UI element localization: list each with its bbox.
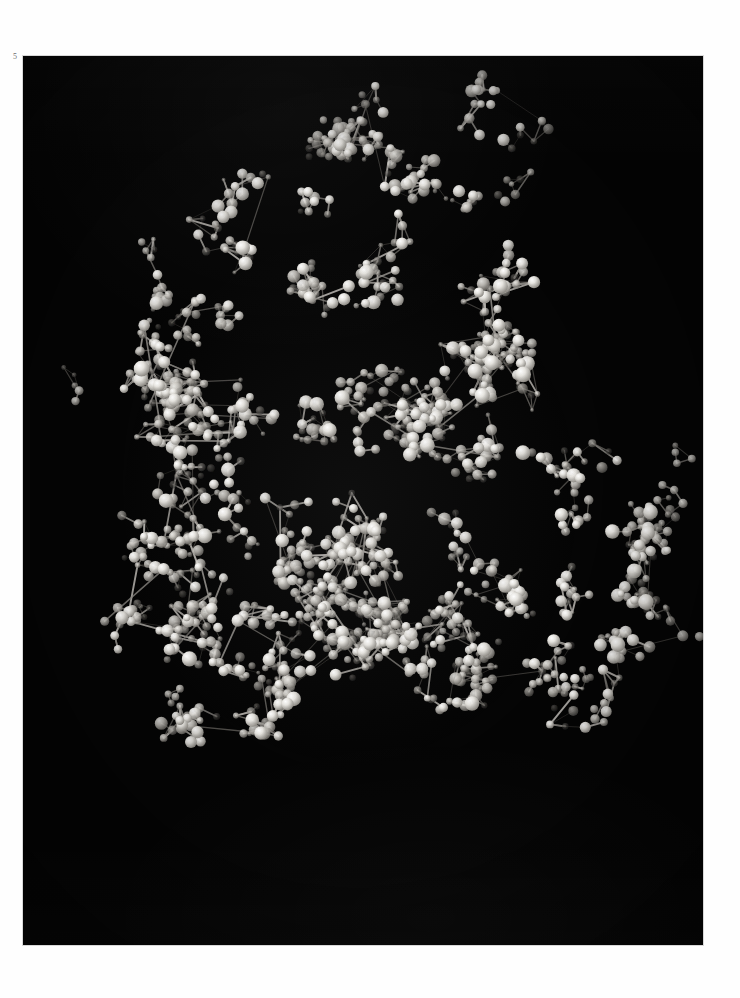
plate-number: 5 xyxy=(13,52,17,62)
photographic-plate xyxy=(23,56,703,945)
molecular-model-figure xyxy=(23,56,703,945)
